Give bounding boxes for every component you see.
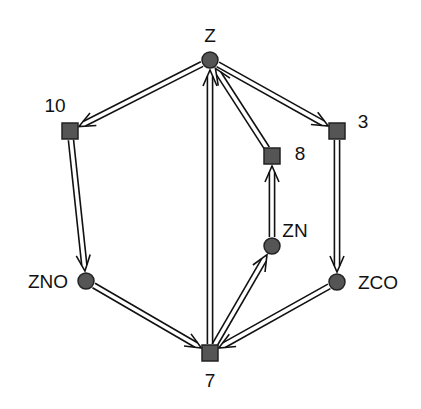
node-label-ZNO: ZNO — [28, 271, 68, 292]
edge-3-to-ZCO — [330, 140, 344, 272]
node-ZCO-circle — [329, 274, 345, 290]
arrowhead-icon — [330, 256, 344, 272]
node-3-square — [329, 123, 345, 139]
node-label-3: 3 — [358, 111, 369, 132]
nodes-layer — [62, 52, 345, 361]
edge-ZN-to-8 — [265, 166, 279, 237]
node-7-square — [202, 345, 218, 361]
edge-Z-to-10 — [79, 62, 203, 127]
node-label-7: 7 — [205, 370, 216, 391]
arrowhead-icon — [76, 254, 90, 271]
edge-7-to-Z — [203, 70, 217, 344]
arrowhead-icon — [203, 70, 217, 86]
node-label-ZN: ZN — [282, 220, 307, 241]
reaction-network-diagram: Z1038ZNZNOZCO7 — [0, 0, 421, 409]
edge-10-to-ZNO — [68, 140, 90, 271]
edges-layer — [68, 62, 344, 348]
node-Z-circle — [202, 52, 218, 68]
node-ZNO-circle — [78, 273, 94, 289]
edge-ZCO-to-7 — [219, 284, 331, 348]
node-10-square — [62, 123, 78, 139]
node-label-Z: Z — [204, 25, 216, 46]
node-label-ZCO: ZCO — [358, 272, 398, 293]
node-ZN-circle — [264, 238, 280, 254]
arrowhead-icon — [265, 166, 279, 182]
node-label-8: 8 — [295, 143, 306, 164]
node-8-square — [264, 148, 280, 164]
edge-ZNO-to-7 — [92, 283, 201, 348]
node-label-10: 10 — [44, 95, 65, 116]
edge-Z-to-3 — [217, 62, 329, 126]
